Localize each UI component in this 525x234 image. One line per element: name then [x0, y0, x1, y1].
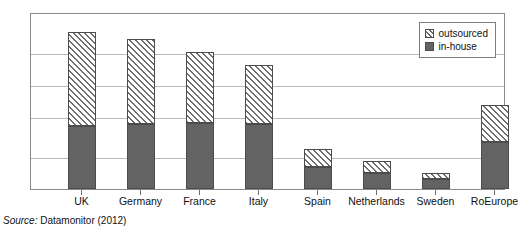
bar-segment-in-house[interactable]: [363, 173, 391, 189]
bar-segment-outsourced[interactable]: [304, 149, 332, 167]
bar-segment-outsourced[interactable]: [481, 105, 509, 142]
bar-segment-in-house[interactable]: [481, 142, 509, 189]
bar-segment-in-house[interactable]: [186, 123, 214, 189]
bar-segment-outsourced[interactable]: [422, 173, 450, 179]
bar-group-uk[interactable]: [53, 14, 112, 189]
chart-figure: outsourced in-house: [30, 13, 505, 190]
bar-group-netherlands[interactable]: [348, 14, 407, 189]
bar-segment-outsourced[interactable]: [363, 161, 391, 173]
legend-item-outsourced[interactable]: outsourced: [425, 27, 488, 40]
bar-group-germany[interactable]: [112, 14, 171, 189]
bar-segment-outsourced[interactable]: [68, 32, 96, 126]
bar-segment-outsourced[interactable]: [245, 65, 273, 124]
legend-label: in-house: [439, 40, 477, 53]
axis-label-spain: Spain: [288, 194, 347, 208]
bar-group-italy[interactable]: [230, 14, 289, 189]
chart-legend: outsourced in-house: [419, 22, 496, 58]
solid-swatch-icon: [425, 42, 434, 51]
axis-label-roeurope: RoEurope: [465, 194, 524, 208]
axis-label-germany: Germany: [111, 194, 170, 208]
bar-segment-in-house[interactable]: [127, 124, 155, 189]
axis-label-france: France: [170, 194, 229, 208]
legend-item-in-house[interactable]: in-house: [425, 40, 488, 53]
bar-segment-in-house[interactable]: [304, 167, 332, 189]
bar-segment-outsourced[interactable]: [186, 52, 214, 123]
bar-segment-in-house[interactable]: [245, 124, 273, 189]
source-note: Source: Datamonitor (2012): [3, 214, 126, 227]
bar-group-spain[interactable]: [289, 14, 348, 189]
bar-segment-outsourced[interactable]: [127, 39, 155, 124]
source-text: Datamonitor (2012): [40, 215, 126, 226]
bar-segment-in-house[interactable]: [68, 126, 96, 189]
source-prefix: Source:: [3, 215, 37, 226]
axis-label-italy: Italy: [229, 194, 288, 208]
bar-segment-in-house[interactable]: [422, 179, 450, 189]
bar-group-france[interactable]: [171, 14, 230, 189]
legend-label: outsourced: [439, 27, 488, 40]
axis-label-netherlands: Netherlands: [347, 194, 406, 208]
axis-label-uk: UK: [52, 194, 111, 208]
axis-label-sweden: Sweden: [406, 194, 465, 208]
hatched-swatch-icon: [425, 29, 434, 38]
x-axis-labels: UK Germany France Italy Spain Netherland…: [30, 194, 505, 212]
